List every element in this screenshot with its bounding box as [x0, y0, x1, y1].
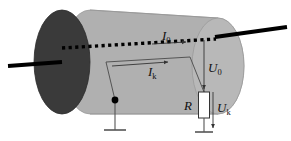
- resistor-rect: [199, 92, 210, 118]
- resistor-body: [199, 88, 210, 132]
- junction-dot-marker: [112, 97, 119, 104]
- label-r: R: [183, 98, 192, 113]
- figure-container: I0 Ik U0 Uk R: [0, 0, 291, 141]
- diagram-svg: I0 Ik U0 Uk R: [0, 0, 291, 141]
